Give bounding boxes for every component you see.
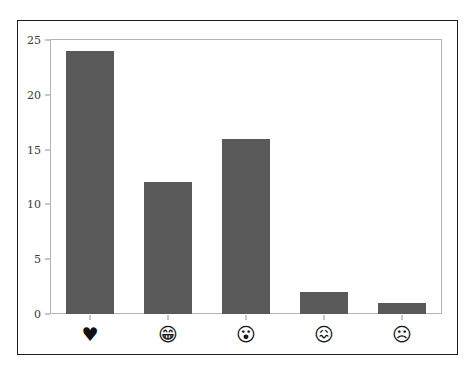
y-tick-label: 0 xyxy=(34,308,41,321)
y-tick-mark xyxy=(45,314,50,315)
y-tick-mark xyxy=(45,149,50,150)
grinning-face-with-smiling-eyes-emoji: 😁 xyxy=(148,323,188,345)
y-tick-label: 20 xyxy=(27,88,41,101)
y-tick-mark xyxy=(45,94,50,95)
x-tick-mark xyxy=(246,315,247,320)
x-tick-mark xyxy=(402,315,403,320)
y-tick-label: 10 xyxy=(27,198,41,211)
y-tick-label: 5 xyxy=(34,253,41,266)
y-axis: 0510152025 xyxy=(18,21,50,356)
figure-frame: 0510152025 ♥😁😮😖☹ xyxy=(17,20,458,355)
bar xyxy=(300,292,348,314)
y-tick-label: 15 xyxy=(27,143,41,156)
y-tick-mark xyxy=(45,204,50,205)
bar-chart: 0510152025 ♥😁😮😖☹ xyxy=(18,21,459,356)
confounded-face-emoji: 😖 xyxy=(304,323,344,345)
x-tick-mark xyxy=(324,315,325,320)
y-tick-mark xyxy=(45,40,50,41)
heart-emoji: ♥ xyxy=(70,323,110,345)
x-tick-mark xyxy=(168,315,169,320)
y-tick-label: 25 xyxy=(27,34,41,47)
bar xyxy=(66,51,114,314)
frowning-face-emoji: ☹ xyxy=(382,323,422,345)
cropped-text-artifact xyxy=(0,0,476,16)
bar xyxy=(222,139,270,314)
face-with-open-mouth-emoji: 😮 xyxy=(226,323,266,345)
x-axis: ♥😁😮😖☹ xyxy=(51,315,441,356)
bar xyxy=(144,182,192,314)
bar xyxy=(378,303,426,314)
x-tick-mark xyxy=(90,315,91,320)
y-tick-mark xyxy=(45,259,50,260)
bars-container xyxy=(51,40,441,314)
